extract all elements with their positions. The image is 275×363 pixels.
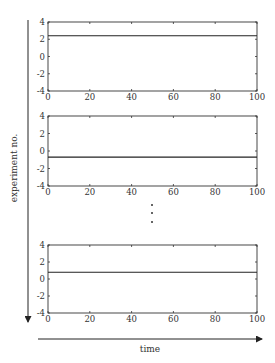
- y-tick-label: 4: [40, 17, 45, 27]
- x-tick-label: 20: [84, 187, 95, 197]
- plot-frame: [48, 116, 257, 186]
- y-tick-label: 0: [40, 146, 45, 156]
- x-tick-label: 100: [249, 92, 265, 102]
- x-tick-label: 100: [249, 314, 265, 324]
- y-axis-label: experiment no.: [9, 134, 19, 203]
- x-tick-label: 80: [210, 187, 221, 197]
- x-tick-label: 40: [126, 187, 137, 197]
- x-tick-label: 20: [84, 314, 95, 324]
- x-tick-label: 100: [249, 187, 265, 197]
- x-tick-label: 80: [210, 314, 221, 324]
- y-tick-label: -2: [37, 69, 45, 79]
- ellipsis-dots: [151, 204, 153, 223]
- plot-panel-1: 020406080100420-2-4: [37, 17, 265, 102]
- x-tick-label: 60: [168, 187, 179, 197]
- plot-panel-3: 020406080100420-2-4: [37, 240, 265, 324]
- y-tick-label: 2: [40, 129, 45, 139]
- x-tick-label: 40: [126, 92, 137, 102]
- x-tick-label: 20: [84, 92, 95, 102]
- x-tick-label: 40: [126, 314, 137, 324]
- y-tick-label: -2: [37, 164, 45, 174]
- y-tick-label: 2: [40, 34, 45, 44]
- y-tick-label: 2: [40, 257, 45, 267]
- y-tick-label: 0: [40, 274, 45, 284]
- x-tick-label: 60: [168, 314, 179, 324]
- y-tick-label: -2: [37, 291, 45, 301]
- plot-frame: [48, 245, 257, 313]
- x-tick-label: 60: [168, 92, 179, 102]
- y-tick-label: -4: [37, 86, 45, 96]
- y-tick-label: 4: [40, 240, 45, 250]
- y-tick-label: -4: [37, 308, 45, 318]
- x-axis-label: time: [140, 344, 160, 354]
- diagram-canvas: experiment no. time 020406080100420-2-40…: [0, 0, 275, 363]
- x-tick-label: 0: [45, 92, 50, 102]
- y-tick-label: 0: [40, 52, 45, 62]
- x-tick-label: 80: [210, 92, 221, 102]
- x-tick-label: 0: [45, 187, 50, 197]
- y-tick-label: -4: [37, 181, 45, 191]
- y-tick-label: 4: [40, 111, 45, 121]
- plot-frame: [48, 22, 257, 91]
- x-tick-label: 0: [45, 314, 50, 324]
- plot-panel-2: 020406080100420-2-4: [37, 111, 265, 197]
